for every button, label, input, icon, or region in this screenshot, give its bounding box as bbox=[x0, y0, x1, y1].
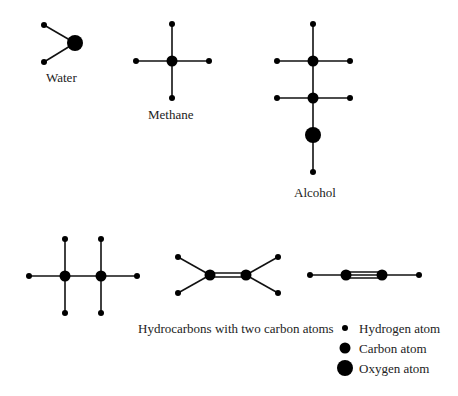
methane-label: Methane bbox=[148, 108, 193, 121]
carbon-atom bbox=[341, 270, 352, 281]
hydrogen-atom bbox=[347, 95, 353, 101]
alcohol-label: Alcohol bbox=[294, 186, 336, 199]
carbon-atom bbox=[308, 93, 319, 104]
hydrocarbons-label: Hydrocarbons with two carbon atoms bbox=[138, 322, 334, 335]
molecule-diagram bbox=[0, 0, 458, 396]
carbon-atom bbox=[308, 56, 319, 67]
carbon-atom bbox=[60, 271, 71, 282]
hydrogen-atom bbox=[62, 310, 68, 316]
water-molecule bbox=[41, 22, 83, 65]
carbon-atom bbox=[377, 270, 388, 281]
hydrogen-atom bbox=[175, 254, 181, 260]
hydrogen-atom bbox=[175, 290, 181, 296]
ethene-molecule bbox=[175, 254, 281, 296]
carbon-atom bbox=[167, 56, 178, 67]
legend-carbon-icon bbox=[340, 343, 351, 354]
hydrogen-atom bbox=[310, 21, 316, 27]
hydrogen-atom bbox=[310, 169, 316, 175]
carbon-atom bbox=[205, 270, 216, 281]
carbon-atom bbox=[96, 271, 107, 282]
hydrogen-atom bbox=[347, 58, 353, 64]
hydrogen-atom bbox=[41, 22, 47, 28]
hydrogen-atom bbox=[307, 272, 313, 278]
water-label: Water bbox=[46, 71, 77, 84]
hydrogen-atom bbox=[206, 58, 212, 64]
hydrogen-atom bbox=[275, 254, 281, 260]
hydrogen-atom bbox=[133, 58, 139, 64]
oxygen-atom bbox=[305, 127, 321, 143]
hydrogen-atom bbox=[275, 290, 281, 296]
oxygen-atom bbox=[67, 35, 83, 51]
hydrogen-atom bbox=[26, 273, 32, 279]
carbon-atom bbox=[241, 270, 252, 281]
hydrogen-atom bbox=[274, 95, 280, 101]
legend-oxygen-label: Oxygen atom bbox=[359, 362, 429, 375]
hydrogen-atom bbox=[134, 273, 140, 279]
hydrogen-atom bbox=[416, 272, 422, 278]
legend-hydrogen-label: Hydrogen atom bbox=[359, 322, 440, 335]
legend-oxygen-icon bbox=[337, 360, 353, 376]
hydrogen-atom bbox=[274, 58, 280, 64]
legend-carbon-label: Carbon atom bbox=[359, 342, 427, 355]
hydrogen-atom bbox=[169, 95, 175, 101]
hydrogen-atom bbox=[62, 236, 68, 242]
hydrogen-atom bbox=[169, 21, 175, 27]
hydrogen-atom bbox=[98, 310, 104, 316]
hydrogen-atom bbox=[41, 59, 47, 65]
hydrogen-atom bbox=[98, 236, 104, 242]
legend-hydrogen-icon bbox=[342, 325, 348, 331]
